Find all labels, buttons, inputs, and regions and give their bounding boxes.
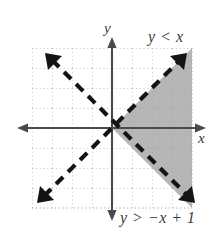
y-axis-arrow-up <box>107 37 116 48</box>
inequality-graph-figure: y < x y > −x + 1 y x <box>0 0 218 237</box>
y-axis-label: y <box>104 21 111 36</box>
inequality-label-y-greater-than-neg-x-plus-1: y > −x + 1 <box>120 210 196 226</box>
inequality-label-y-less-than-x: y < x <box>148 29 184 45</box>
x-axis-label: x <box>198 131 205 146</box>
y-axis-arrow-down <box>107 210 116 221</box>
x-axis-arrow-left <box>17 123 28 132</box>
